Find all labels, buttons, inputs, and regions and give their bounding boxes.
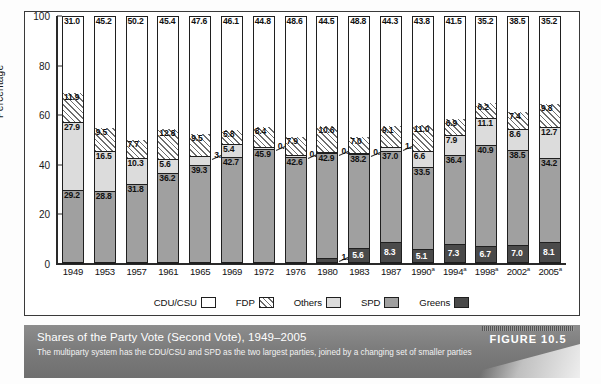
segment-greens[interactable]: 5.6 <box>349 249 369 263</box>
stacked-bar-1972[interactable]: 44.88.40.945.9 <box>253 16 275 264</box>
stacked-bar-1969[interactable]: 46.15.85.442.7 <box>221 16 243 264</box>
segment-spd[interactable]: 39.3 <box>190 166 210 263</box>
stacked-bar-1953[interactable]: 45.29.516.528.8 <box>94 16 116 264</box>
segment-fdp[interactable]: 8.4 <box>254 127 274 148</box>
segment-fdp[interactable]: 9.8 <box>540 104 560 128</box>
segment-cdu-csu[interactable]: 44.3 <box>381 17 401 126</box>
segment-others[interactable]: 12.7 <box>540 128 560 159</box>
segment-fdp[interactable]: 5.8 <box>222 130 242 144</box>
segment-spd[interactable]: 45.9 <box>254 150 274 263</box>
segment-greens[interactable]: 5.1 <box>413 250 433 263</box>
segment-others[interactable]: 16.5 <box>95 152 115 193</box>
segment-spd[interactable]: 42.9 <box>317 154 337 260</box>
segment-fdp[interactable]: 11.9 <box>63 93 83 122</box>
bar-column[interactable]: 46.15.85.442.7 <box>216 16 248 264</box>
segment-fdp[interactable]: 9.1 <box>381 126 401 148</box>
segment-fdp[interactable]: 6.2 <box>476 103 496 118</box>
legend-item-spd[interactable]: SPD <box>361 297 399 308</box>
segment-greens[interactable]: 8.1 <box>540 243 560 263</box>
bar-column[interactable]: 43.811.06.633.55.1 <box>407 16 439 264</box>
bar-column[interactable]: 45.29.516.528.8 <box>89 16 121 264</box>
stacked-bar-1957[interactable]: 50.27.710.331.8 <box>126 16 148 264</box>
segment-others[interactable]: 27.9 <box>63 123 83 192</box>
segment-cdu-csu[interactable]: 44.5 <box>317 17 337 126</box>
bar-column[interactable]: 44.88.40.945.9 <box>248 16 280 264</box>
segment-greens[interactable]: 7.3 <box>445 245 465 263</box>
segment-fdp[interactable]: 7.4 <box>508 112 528 130</box>
stacked-bar-1961[interactable]: 45.412.85.636.2 <box>157 16 179 264</box>
segment-fdp[interactable]: 12.8 <box>158 129 178 160</box>
segment-others[interactable]: 5.6 <box>158 160 178 174</box>
segment-cdu-csu[interactable]: 38.5 <box>508 17 528 112</box>
bar-column[interactable]: 35.29.812.734.28.1 <box>534 16 566 264</box>
segment-fdp[interactable]: 9.5 <box>95 128 115 151</box>
segment-cdu-csu[interactable]: 47.6 <box>190 17 210 134</box>
segment-greens[interactable]: 1.5 <box>317 259 337 263</box>
stacked-bar-1980[interactable]: 44.510.60.542.91.5 <box>316 16 338 264</box>
segment-fdp[interactable]: 9.5 <box>190 134 210 157</box>
segment-cdu-csu[interactable]: 41.5 <box>445 17 465 119</box>
segment-spd[interactable]: 28.8 <box>95 192 115 263</box>
bar-column[interactable]: 48.87.00.438.25.6 <box>343 16 375 264</box>
bar-column[interactable]: 41.56.97.936.47.3 <box>439 16 471 264</box>
segment-spd[interactable]: 42.7 <box>222 158 242 263</box>
segment-spd[interactable]: 29.2 <box>63 191 83 263</box>
bar-column[interactable]: 45.412.85.636.2 <box>152 16 184 264</box>
segment-fdp[interactable]: 10.6 <box>317 126 337 152</box>
bar-column[interactable]: 35.26.211.140.96.7 <box>471 16 503 264</box>
bar-column[interactable]: 31.011.927.929.2 <box>57 16 89 264</box>
segment-spd[interactable]: 31.8 <box>127 185 147 263</box>
segment-spd[interactable]: 38.5 <box>508 151 528 246</box>
legend-item-fdp[interactable]: FDP <box>236 297 274 308</box>
stacked-bar-1990[interactable]: 43.811.06.633.55.1 <box>412 16 434 264</box>
stacked-bar-1949[interactable]: 31.011.927.929.2 <box>62 16 84 264</box>
segment-greens[interactable]: 6.7 <box>476 247 496 263</box>
segment-fdp[interactable]: 11.0 <box>413 125 433 152</box>
segment-fdp[interactable]: 7.9 <box>286 137 306 156</box>
stacked-bar-1965[interactable]: 47.69.53.639.3 <box>189 16 211 264</box>
segment-others[interactable]: 6.6 <box>413 152 433 168</box>
bar-column[interactable]: 47.69.53.639.3 <box>184 16 216 264</box>
segment-cdu-csu[interactable]: 35.2 <box>540 17 560 104</box>
segment-cdu-csu[interactable]: 43.8 <box>413 17 433 125</box>
segment-greens[interactable]: 7.0 <box>508 246 528 263</box>
legend-item-others[interactable]: Others <box>294 297 341 308</box>
legend-item-cdu[interactable]: CDU/CSU <box>154 297 216 308</box>
stacked-bar-1994[interactable]: 41.56.97.936.47.3 <box>444 16 466 264</box>
segment-cdu-csu[interactable]: 31.0 <box>63 17 83 93</box>
segment-cdu-csu[interactable]: 48.8 <box>349 17 369 137</box>
bar-column[interactable]: 44.510.60.542.91.5 <box>312 16 344 264</box>
segment-cdu-csu[interactable]: 44.8 <box>254 17 274 127</box>
segment-cdu-csu[interactable]: 48.6 <box>286 17 306 137</box>
segment-spd[interactable]: 40.9 <box>476 146 496 247</box>
segment-others[interactable]: 7.9 <box>445 136 465 155</box>
segment-spd[interactable]: 34.2 <box>540 159 560 243</box>
segment-spd[interactable]: 36.2 <box>158 174 178 263</box>
segment-cdu-csu[interactable]: 45.4 <box>158 17 178 129</box>
segment-fdp[interactable]: 6.9 <box>445 119 465 136</box>
bar-column[interactable]: 50.27.710.331.8 <box>121 16 153 264</box>
segment-others[interactable]: 8.6 <box>508 130 528 151</box>
stacked-bar-1987[interactable]: 44.39.11.337.08.3 <box>380 16 402 264</box>
segment-fdp[interactable]: 7.0 <box>349 137 369 154</box>
segment-cdu-csu[interactable]: 46.1 <box>222 17 242 130</box>
segment-spd[interactable]: 33.5 <box>413 168 433 250</box>
bar-column[interactable]: 48.67.90.942.6 <box>280 16 312 264</box>
segment-spd[interactable]: 36.4 <box>445 156 465 246</box>
stacked-bar-2002[interactable]: 38.57.48.638.57.0 <box>507 16 529 264</box>
segment-cdu-csu[interactable]: 50.2 <box>127 17 147 140</box>
segment-cdu-csu[interactable]: 45.2 <box>95 17 115 128</box>
stacked-bar-1998[interactable]: 35.26.211.140.96.7 <box>475 16 497 264</box>
stacked-bar-1983[interactable]: 48.87.00.438.25.6 <box>348 16 370 264</box>
segment-cdu-csu[interactable]: 35.2 <box>476 17 496 104</box>
bar-column[interactable]: 44.39.11.337.08.3 <box>375 16 407 264</box>
segment-spd[interactable]: 38.2 <box>349 155 369 249</box>
stacked-bar-1976[interactable]: 48.67.90.942.6 <box>285 16 307 264</box>
bar-column[interactable]: 38.57.48.638.57.0 <box>502 16 534 264</box>
segment-greens[interactable]: 8.3 <box>381 243 401 263</box>
segment-spd[interactable]: 37.0 <box>381 152 401 243</box>
segment-others[interactable]: 10.3 <box>127 159 147 184</box>
segment-others[interactable]: 5.4 <box>222 145 242 158</box>
segment-spd[interactable]: 42.6 <box>286 158 306 263</box>
segment-others[interactable]: 11.1 <box>476 119 496 146</box>
